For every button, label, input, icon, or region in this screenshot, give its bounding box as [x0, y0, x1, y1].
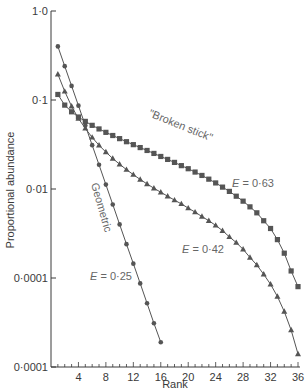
data-point-circle: [104, 182, 109, 187]
data-point-square: [206, 177, 211, 182]
y-tick-label: 0·0001: [14, 272, 48, 284]
data-point-square: [110, 133, 115, 138]
data-point-circle: [69, 84, 74, 89]
y-tick-label: 0·0001: [14, 361, 48, 373]
data-point-square: [131, 142, 136, 147]
data-point-square: [234, 194, 239, 199]
data-point-square: [172, 160, 177, 165]
data-point-circle: [110, 202, 115, 207]
data-point-circle: [145, 301, 150, 306]
data-point-square: [158, 154, 163, 159]
data-point-triangle: [123, 166, 129, 171]
data-point-square: [165, 157, 170, 162]
x-tick-label: 32: [264, 371, 276, 383]
y-tick-label: 1·0: [32, 5, 48, 17]
data-point-square: [62, 103, 67, 108]
data-point-circle: [56, 44, 61, 49]
x-tick-label: 4: [75, 371, 81, 383]
data-point-triangle: [117, 161, 123, 166]
data-point-square: [289, 268, 294, 273]
data-point-circle: [124, 242, 129, 247]
data-point-square: [261, 218, 266, 223]
data-point-square: [241, 199, 246, 204]
geometric-label: Geometric: [89, 181, 115, 234]
data-point-circle: [62, 64, 67, 69]
data-point-triangle: [130, 171, 136, 176]
data-point-triangle: [281, 308, 287, 313]
data-point-square: [295, 284, 300, 289]
data-point-circle: [76, 103, 81, 108]
series-line: [58, 74, 298, 354]
data-point-triangle: [151, 185, 157, 190]
data-point-triangle: [178, 201, 184, 206]
data-point-square: [144, 148, 149, 153]
data-point-square: [199, 173, 204, 178]
data-point-square: [227, 189, 232, 194]
data-point-square: [247, 204, 252, 209]
data-point-square: [90, 123, 95, 128]
data-point-triangle: [55, 71, 61, 76]
data-point-square: [282, 251, 287, 256]
rank-abundance-chart: 1·00·10·010·00010·0001 4812162024283236 …: [0, 0, 308, 392]
data-point-square: [124, 139, 129, 144]
data-point-square: [186, 166, 191, 171]
data-point-triangle: [288, 327, 294, 332]
y-tick-label: 0·1: [32, 94, 48, 106]
data-point-circle: [152, 321, 157, 326]
x-axis-title: Rank: [162, 378, 188, 390]
data-point-circle: [97, 163, 102, 168]
axes: [51, 11, 300, 367]
data-point-square: [192, 169, 197, 174]
series-layer: [55, 44, 301, 356]
data-point-square: [268, 226, 273, 231]
data-point-triangle: [62, 88, 68, 93]
e042-value: = 0·42: [189, 243, 224, 255]
data-point-circle: [158, 340, 163, 345]
x-tick-label: 36: [292, 371, 304, 383]
data-point-square: [220, 185, 225, 190]
series-line: [58, 46, 161, 342]
data-point-triangle: [213, 222, 219, 227]
data-point-circle: [138, 281, 143, 286]
data-point-triangle: [158, 189, 164, 194]
data-point-triangle: [172, 197, 178, 202]
y-tick-label: 0·01: [26, 183, 48, 195]
data-point-triangle: [144, 181, 150, 186]
data-point-triangle: [185, 205, 191, 210]
data-point-triangle: [295, 351, 301, 356]
data-point-square: [96, 126, 101, 131]
data-point-square: [117, 136, 122, 141]
data-point-circle: [90, 143, 95, 148]
data-point-triangle: [199, 213, 205, 218]
data-point-square: [138, 145, 143, 150]
data-point-square: [254, 210, 259, 215]
data-point-triangle: [192, 209, 198, 214]
data-point-circle: [83, 123, 88, 128]
data-point-square: [55, 92, 60, 97]
x-tick-label: 24: [210, 371, 222, 383]
x-tick-label: 28: [237, 371, 249, 383]
y-axis-ticks: 1·00·10·010·00010·0001: [14, 5, 56, 373]
data-point-square: [179, 163, 184, 168]
series-circle: [56, 44, 164, 344]
x-tick-label: 8: [103, 371, 109, 383]
series-triangle: [55, 71, 301, 356]
data-point-triangle: [206, 218, 212, 223]
broken-stick-label: "Broken stick": [147, 107, 214, 144]
data-point-square: [213, 180, 218, 185]
e025-label: E = 0·25: [90, 270, 132, 282]
e025-value: = 0·25: [97, 270, 132, 282]
e042-label: E = 0·42: [182, 243, 224, 255]
e063-value: = 0·63: [239, 177, 274, 189]
data-point-circle: [117, 222, 122, 227]
data-point-triangle: [137, 176, 143, 181]
y-axis-title: Proportional abundance: [4, 132, 16, 249]
data-point-circle: [131, 261, 136, 266]
data-point-triangle: [220, 227, 226, 232]
data-point-triangle: [274, 293, 280, 298]
data-point-triangle: [69, 103, 75, 108]
data-point-triangle: [165, 193, 171, 198]
data-point-square: [151, 151, 156, 156]
data-point-square: [275, 237, 280, 242]
e063-label: E = 0·63: [232, 177, 274, 189]
